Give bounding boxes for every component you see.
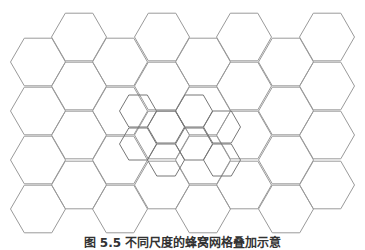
large-hexagon xyxy=(11,136,66,184)
large-hexagon xyxy=(176,38,231,86)
large-hexagon xyxy=(300,111,355,159)
large-hexagon xyxy=(11,87,66,135)
large-hexagon xyxy=(52,111,107,159)
large-hexagon xyxy=(11,38,66,86)
large-hexagon xyxy=(300,13,355,61)
large-hexagon xyxy=(176,185,231,233)
large-hexagon xyxy=(300,62,355,110)
small-hexagon-overlay xyxy=(120,95,241,176)
large-hexagon xyxy=(52,13,107,61)
small-hexagon xyxy=(148,144,185,176)
large-hexagon xyxy=(52,161,107,209)
large-hexagon xyxy=(52,62,107,110)
figure-caption: 图 5.5 不同尺度的蜂窝网格叠加示意 xyxy=(0,236,365,250)
large-hexagon xyxy=(11,185,66,233)
small-hexagon xyxy=(204,144,241,176)
large-hexagon xyxy=(300,161,355,209)
